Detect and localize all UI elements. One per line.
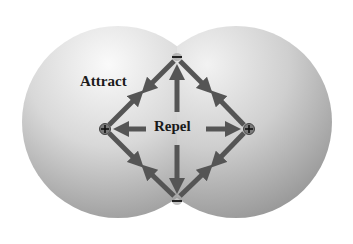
electron-bottom [172,197,182,205]
nucleus-left [100,124,111,135]
repel-label: Repel [154,118,191,135]
nucleus-right [244,124,255,135]
attract-label: Attract [80,73,127,90]
electron-top [172,53,182,61]
